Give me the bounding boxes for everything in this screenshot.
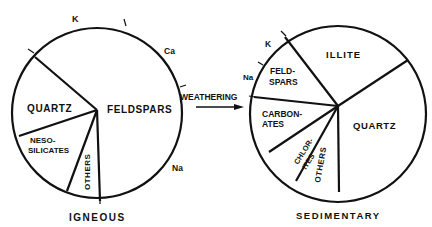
igneous-nesosilicates-label-2: SILICATES bbox=[28, 146, 70, 155]
sedimentary-tick bbox=[281, 31, 286, 36]
igneous-tick bbox=[180, 85, 186, 87]
igneous-others-label: OTHERS bbox=[83, 154, 92, 191]
igneous-tick bbox=[124, 19, 126, 26]
weathering-diagram: FELDSPARS K Ca Na QUARTZ NESO- SILICATES… bbox=[0, 0, 432, 227]
igneous-tick bbox=[28, 49, 34, 53]
sedimentary-quartz-label: QUARTZ bbox=[353, 120, 396, 131]
sedimentary-feldspars-label-1: FELD- bbox=[270, 66, 295, 76]
sedimentary-tick bbox=[258, 62, 263, 65]
sedimentary-title: SEDIMENTARY bbox=[296, 210, 381, 221]
sedimentary-illite-label: ILLITE bbox=[326, 49, 361, 60]
sedimentary-carbonates-label-1: CARBON- bbox=[262, 109, 302, 119]
igneous-ca-label: Ca bbox=[164, 46, 175, 56]
sedimentary-others-label: OTHERS bbox=[313, 146, 328, 184]
sedimentary-divider-quartz bbox=[338, 60, 408, 106]
igneous-divider-others bbox=[67, 110, 97, 191]
igneous-quartz-label: QUARTZ bbox=[27, 103, 72, 114]
igneous-nesosilicates-label-1: NESO- bbox=[30, 136, 56, 145]
sedimentary-feldspars-label-2: SPARS bbox=[269, 77, 298, 87]
sedimentary-na-label: Na bbox=[243, 73, 254, 82]
sedimentary-divider-feldspars bbox=[254, 97, 338, 106]
weathering-arrow bbox=[196, 104, 244, 110]
sedimentary-k-label: K bbox=[265, 39, 272, 49]
igneous-divider-feldspars bbox=[97, 110, 100, 201]
igneous-k-label: K bbox=[72, 14, 79, 24]
sedimentary-divider-others bbox=[338, 106, 339, 192]
weathering-label: WEATHERING bbox=[180, 92, 238, 102]
igneous-na-label: Na bbox=[172, 163, 183, 173]
sedimentary-carbonates-label-2: ATES bbox=[262, 119, 284, 129]
igneous-feldspars-label: FELDSPARS bbox=[107, 104, 172, 115]
igneous-title: IGNEOUS bbox=[69, 212, 126, 223]
